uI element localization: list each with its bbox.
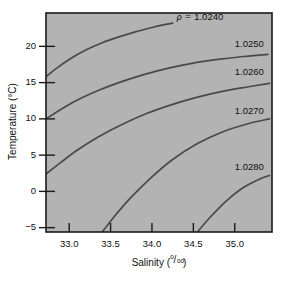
contour-value: 1.0270 (235, 105, 264, 116)
y-tick-label: 20 (25, 40, 36, 51)
y-tick-label: −5 (25, 221, 36, 232)
permille-slash: / (174, 255, 177, 265)
y-tick-label: 5 (31, 149, 36, 160)
x-axis-title-text: Salinity ( (132, 257, 170, 268)
y-tick-label: 15 (25, 76, 36, 87)
contour-value: 1.0240 (194, 11, 223, 22)
rho-symbol: ρ = (177, 11, 194, 22)
contour-label: 1.0250 (235, 38, 264, 49)
figure-container: 20151050−5 33.033.534.034.535.0 ρ = 1.02… (0, 0, 289, 282)
contour-label: ρ = 1.0240 (177, 11, 223, 22)
contour-value: 1.0280 (235, 161, 264, 172)
contour-value: 1.0250 (235, 38, 264, 49)
contour-label: 1.0270 (235, 105, 264, 116)
contour-label: 1.0260 (235, 66, 264, 77)
permille-symbol: o/oo (170, 256, 183, 266)
contour-value: 1.0260 (235, 66, 264, 77)
permille-denominator: oo (177, 258, 184, 265)
contour-label: 1.0280 (235, 161, 264, 172)
x-tick-label: 34.0 (132, 238, 172, 249)
y-tick-label: 0 (31, 185, 36, 196)
y-tick-label: 10 (25, 112, 36, 123)
x-tick-label: 35.0 (215, 238, 255, 249)
x-tick-label: 34.5 (173, 238, 213, 249)
x-tick-label: 33.0 (49, 238, 89, 249)
x-axis-title: Salinity (o/oo) (99, 256, 219, 268)
x-tick-label: 33.5 (91, 238, 131, 249)
y-axis-title: Temperature (°C) (7, 71, 18, 171)
